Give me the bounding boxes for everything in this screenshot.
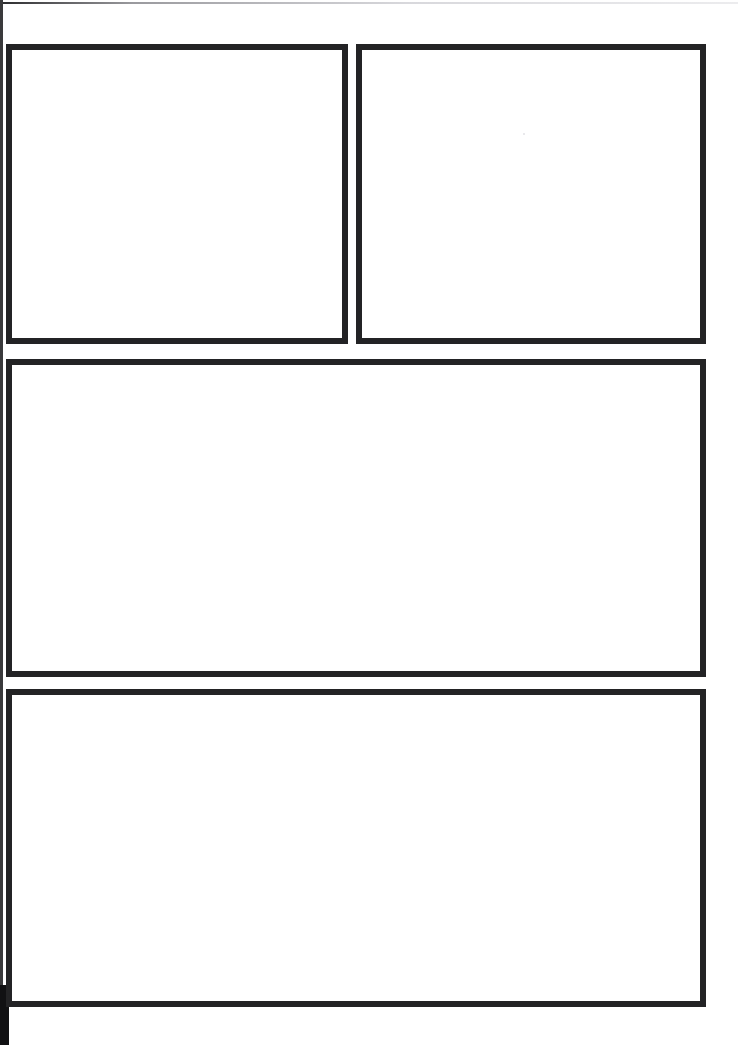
page-gutter-strip [0,0,3,1045]
content-frame-top-right [356,44,706,344]
content-frame-middle [6,359,706,677]
content-frame-top-left-body [12,50,342,338]
content-frame-bottom-body [12,695,700,1001]
content-frame-middle-body [12,365,700,671]
scan-speck-artifact [523,133,525,135]
content-frame-top-left [6,44,348,344]
content-frame-top-right-body [362,50,700,338]
document-page [0,0,738,1045]
scan-edge-line [0,2,738,4]
content-frame-bottom [6,689,706,1007]
